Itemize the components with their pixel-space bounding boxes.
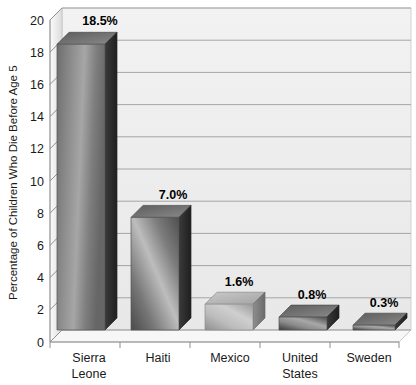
y-tick-label-8: 8 [37, 207, 44, 221]
cat-label-united-states-line1: United [282, 351, 318, 365]
data-label-mexico: 1.6% [225, 275, 254, 289]
bar-side-face [179, 205, 191, 330]
cat-label-sweden: Sweden [346, 351, 391, 365]
data-label-haiti: 7.0% [159, 188, 188, 202]
bar-mexico[interactable] [205, 292, 265, 330]
bar-sierra-leone[interactable] [57, 32, 117, 330]
y-tick-label-4: 4 [37, 271, 44, 285]
y-tick-label-10: 10 [30, 175, 44, 189]
chart-canvas: 20 18 16 14 12 10 8 6 4 2 0 Percentage o… [0, 0, 416, 385]
bar-haiti[interactable] [131, 205, 191, 330]
y-axis-tick-labels: 20 18 16 14 12 10 8 6 4 2 0 [30, 14, 44, 350]
cat-label-sierra-leone-line1: Sierra [72, 351, 105, 365]
bar-front-face [131, 217, 179, 330]
bar-front-face [57, 44, 105, 330]
y-tick-label-0: 0 [37, 336, 44, 350]
bar-front-face [353, 325, 395, 330]
y-tick-label-2: 2 [37, 303, 44, 317]
cat-label-united-states-line2: States [282, 367, 317, 381]
data-label-sweden: 0.3% [370, 296, 399, 310]
y-tick-label-12: 12 [30, 142, 44, 156]
cat-label-sierra-leone-line2: Leone [72, 367, 107, 381]
y-axis-title: Percentage of Children Who Die Before Ag… [7, 65, 19, 300]
y-tick-label-6: 6 [37, 239, 44, 253]
bar-side-face [105, 32, 117, 330]
data-label-united-states: 0.8% [298, 288, 327, 302]
y-tick-label-14: 14 [30, 110, 44, 124]
cat-label-mexico: Mexico [210, 351, 250, 365]
data-label-sierra-leone: 18.5% [82, 14, 117, 28]
plot-floor [50, 330, 411, 342]
bar-front-face [279, 317, 327, 330]
x-axis [50, 342, 399, 348]
bar-chart: 20 18 16 14 12 10 8 6 4 2 0 Percentage o… [0, 0, 416, 385]
cat-label-haiti: Haiti [145, 351, 170, 365]
x-axis-category-labels: Sierra Leone Haiti Mexico United States … [72, 351, 392, 381]
y-tick-label-16: 16 [30, 78, 44, 92]
y-tick-label-18: 18 [30, 46, 44, 60]
bar-united-states[interactable] [279, 305, 339, 330]
y-axis-title-text: Percentage of Children Who Die Before Ag… [7, 65, 19, 300]
y-tick-label-20: 20 [30, 14, 44, 28]
bar-front-face [205, 304, 253, 330]
